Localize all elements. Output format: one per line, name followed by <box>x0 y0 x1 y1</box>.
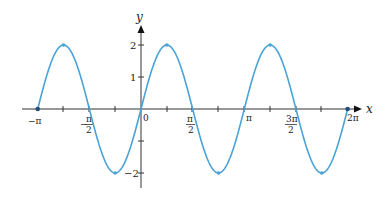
data-point <box>320 171 324 175</box>
data-point <box>165 43 169 47</box>
sine-chart: x y 2 1 −2 −π − π 2 0 π 2 π 3π 2 2π <box>0 0 392 199</box>
y-axis-label: y <box>135 10 143 24</box>
x-tick-neg-half-pi-den: 2 <box>86 125 92 135</box>
y-tick-neg2: −2 <box>124 168 139 179</box>
data-point <box>62 43 66 47</box>
x-tick-three-half-pi-den: 2 <box>288 125 294 135</box>
x-axis-label: x <box>366 102 373 116</box>
data-point <box>35 107 40 112</box>
x-tick-half-pi-num: π <box>187 114 193 124</box>
data-point <box>268 43 272 47</box>
x-axis-arrow-icon <box>354 106 362 113</box>
x-tick-half-pi-den: 2 <box>188 125 194 135</box>
data-point <box>217 171 221 175</box>
y-tick-2: 2 <box>130 40 136 51</box>
y-tick-1: 1 <box>130 72 136 83</box>
data-point <box>345 107 350 112</box>
y-axis-arrow-icon <box>138 25 145 33</box>
x-tick-origin: 0 <box>143 113 149 123</box>
x-tick-pi: π <box>246 113 252 123</box>
x-tick-two-pi: 2π <box>347 113 359 123</box>
data-point <box>113 171 117 175</box>
x-tick-neg-pi: −π <box>28 116 42 126</box>
x-tick-three-half-pi-num: 3π <box>286 114 298 124</box>
